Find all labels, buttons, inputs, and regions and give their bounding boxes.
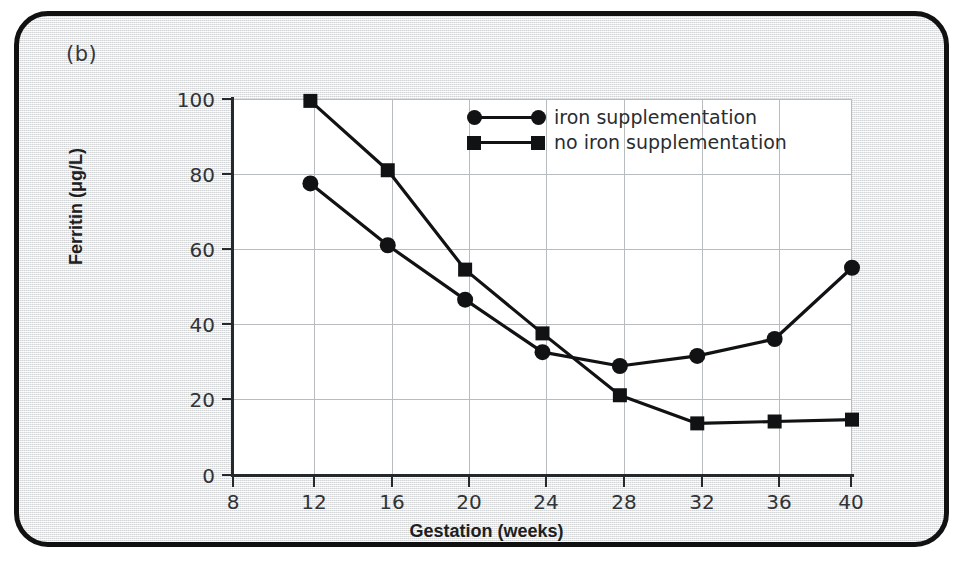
legend-key-square <box>467 132 545 152</box>
chart-panel: (b) 100 80 60 40 20 <box>14 11 949 547</box>
square-marker-icon <box>690 416 704 430</box>
legend-item-iron-supplementation: iron supplementation <box>467 104 787 129</box>
legend-item-no-iron-supplementation: no iron supplementation <box>467 129 787 154</box>
square-marker-icon <box>458 263 472 277</box>
square-marker-icon <box>613 388 627 402</box>
series-layer <box>19 16 949 547</box>
circle-marker-icon <box>467 110 482 125</box>
square-marker-icon <box>381 163 395 177</box>
legend-key-circle <box>467 107 545 127</box>
circle-marker-icon <box>457 292 473 308</box>
circle-marker-icon <box>767 331 783 347</box>
square-marker-icon <box>768 415 782 429</box>
square-marker-icon <box>303 94 317 108</box>
circle-marker-icon <box>531 110 546 125</box>
circle-marker-icon <box>689 348 705 364</box>
circle-marker-icon <box>612 358 628 374</box>
square-marker-icon <box>531 136 545 150</box>
square-marker-icon <box>467 136 481 150</box>
figure-root: (b) 100 80 60 40 20 <box>0 0 967 563</box>
square-marker-icon <box>845 413 859 427</box>
circle-marker-icon <box>844 260 860 276</box>
legend: iron supplementation no iron supplementa… <box>467 104 787 154</box>
legend-label: iron supplementation <box>554 106 757 128</box>
legend-label: no iron supplementation <box>554 131 787 153</box>
circle-marker-icon <box>535 344 551 360</box>
circle-marker-icon <box>302 175 318 191</box>
circle-marker-icon <box>380 237 396 253</box>
square-marker-icon <box>536 326 550 340</box>
